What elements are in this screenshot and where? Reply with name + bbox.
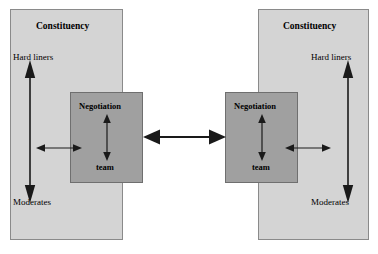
center-link-arrow (143, 130, 226, 145)
left-hard-liners-label: Hard liners (13, 53, 53, 62)
right-constituency-title: Constituency (283, 22, 336, 32)
left-constituency-title: Constituency (36, 22, 89, 32)
diagram-canvas: Constituency Hard liners Moderates Negot… (0, 0, 378, 254)
right-negotiation-title: Negotiation (234, 102, 276, 111)
left-negotiation-title: Negotiation (79, 102, 121, 111)
right-hard-liners-label: Hard liners (311, 53, 351, 62)
right-negotiation-subtitle: team (252, 163, 270, 172)
left-moderates-label: Moderates (13, 198, 51, 207)
left-negotiation-subtitle: team (96, 163, 114, 172)
right-moderates-label: Moderates (311, 198, 349, 207)
